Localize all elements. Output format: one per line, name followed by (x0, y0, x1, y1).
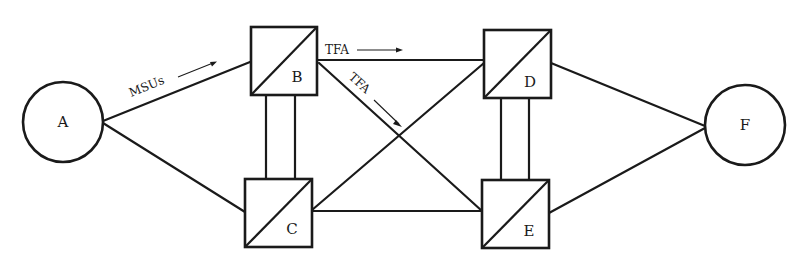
edge-d-f (551, 63, 705, 126)
node-e-label: E (524, 222, 535, 240)
msus-arrow-icon (178, 62, 217, 78)
node-a-label: A (57, 113, 69, 131)
tfa-top-arrow-icon (357, 48, 403, 53)
node-e: E (482, 180, 549, 248)
node-a: A (23, 82, 103, 162)
node-b-label: B (291, 68, 302, 86)
network-diagram: A B C D E F MSUs TFA TFA (0, 0, 803, 263)
edge-e-f (549, 128, 705, 213)
edge-a-b (103, 62, 250, 121)
node-d-label: D (524, 73, 536, 91)
node-f: F (705, 85, 785, 165)
node-c: C (245, 179, 312, 247)
node-b: B (251, 27, 317, 95)
edge-a-c (103, 123, 245, 212)
node-f-label: F (740, 116, 750, 134)
node-d: D (484, 30, 551, 98)
tfa-diag-arrow-icon (374, 100, 402, 127)
node-c-label: C (286, 220, 297, 238)
tfa-top-label: TFA (325, 43, 349, 57)
msus-label: MSUs (127, 73, 166, 100)
